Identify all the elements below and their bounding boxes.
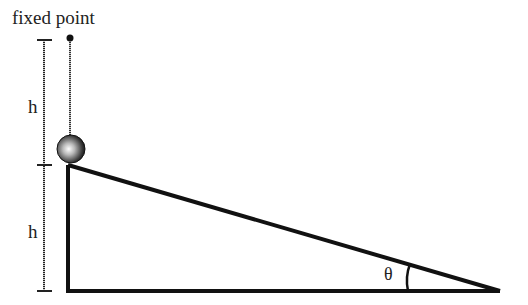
fixed-point-label: fixed point <box>12 7 96 28</box>
height-dimension-line <box>37 40 52 291</box>
angle-arc <box>407 264 410 291</box>
angle-label: θ <box>384 264 393 284</box>
height-label-bottom: h <box>28 221 38 242</box>
height-label-top: h <box>28 96 38 117</box>
physics-diagram: fixed point h h θ <box>0 0 528 305</box>
inclined-plane <box>66 165 500 292</box>
fixed-point-dot <box>67 35 74 42</box>
ball <box>57 135 85 163</box>
